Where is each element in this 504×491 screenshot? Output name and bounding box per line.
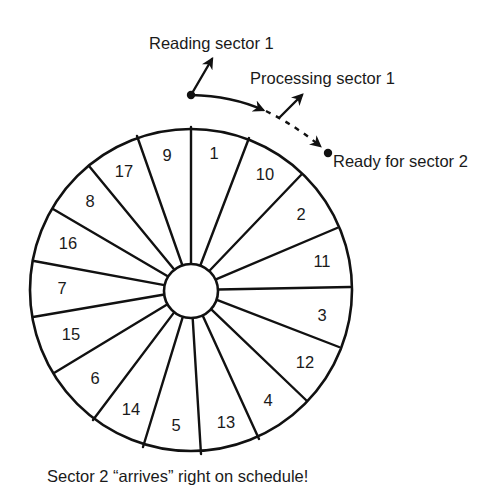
sector-number-label: 2	[296, 205, 305, 223]
sector-number-label: 9	[162, 146, 171, 164]
travel-arc-solid-icon	[191, 95, 263, 110]
sector-number-label: 15	[62, 325, 80, 343]
reading-marker	[187, 59, 212, 99]
travel-arc-dashed-icon	[266, 111, 320, 146]
reading-sector-label: Reading sector 1	[149, 34, 274, 52]
sector-number-label: 17	[115, 162, 133, 180]
sector-number-label: 6	[90, 369, 99, 387]
diagram-caption: Sector 2 “arrives” right on schedule!	[47, 467, 308, 485]
processing-arrow-icon	[280, 95, 302, 117]
ready-sector-label: Ready for sector 2	[333, 152, 468, 170]
sector-number-label: 8	[85, 192, 94, 210]
sector-number-label: 11	[313, 252, 330, 270]
ready-position-dot-icon	[324, 149, 332, 157]
disk-hub	[164, 264, 218, 318]
sector-number-label: 3	[317, 306, 326, 324]
processing-sector-label: Processing sector 1	[250, 69, 395, 87]
sector-number-label: 4	[263, 391, 272, 409]
sector-number-label: 1	[209, 144, 218, 162]
disk-interleave-diagram: Reading sector 1 Processing sector 1 Rea…	[0, 0, 504, 491]
reading-arrow-icon	[191, 59, 212, 95]
sector-number-label: 12	[296, 353, 314, 371]
sector-number-label: 16	[59, 234, 77, 252]
sector-number-label: 10	[256, 165, 274, 183]
sector-number-label: 14	[122, 400, 140, 418]
sector-number-label: 5	[171, 416, 180, 434]
disk-platter: 1102113124135146157168179	[30, 127, 352, 454]
sector-number-label: 13	[217, 413, 235, 431]
sector-number-label: 7	[57, 279, 66, 297]
